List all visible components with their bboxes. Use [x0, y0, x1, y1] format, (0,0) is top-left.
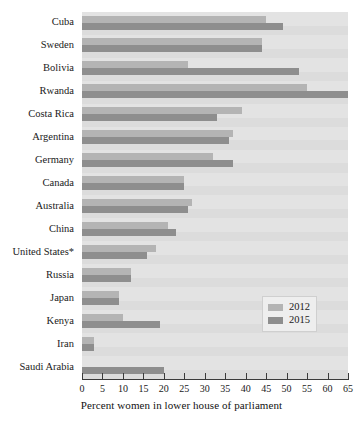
bar-2012-cuba: [82, 16, 266, 23]
bar-2012-kenya: [82, 314, 123, 321]
bar-2015-cuba: [82, 23, 283, 30]
bar-2015-bolivia: [82, 68, 299, 75]
bar-2015-united-states: [82, 252, 147, 259]
bar-2012-bolivia: [82, 61, 188, 68]
category-label-japan: Japan: [0, 293, 74, 304]
category-label-bolivia: Bolivia: [0, 63, 74, 74]
bar-2015-iran: [82, 344, 94, 351]
x-tick-25: [184, 373, 185, 380]
bar-2012-canada: [82, 176, 184, 183]
x-tick-55: [307, 373, 308, 380]
category-axis-labels: CubaSwedenBoliviaRwandaCosta RicaArgenti…: [0, 12, 78, 379]
legend-item-2015: 2015: [268, 314, 310, 327]
bar-2015-australia: [82, 206, 188, 213]
category-label-cuba: Cuba: [0, 17, 74, 28]
category-label-saudi-arabia: Saudi Arabia: [0, 362, 74, 373]
category-label-united-states: United States*: [0, 247, 74, 258]
x-tick-20: [164, 373, 165, 380]
x-tick-10: [123, 373, 124, 380]
bar-2015-sweden: [82, 45, 262, 52]
bar-2015-rwanda: [82, 91, 348, 98]
bar-2012-sweden: [82, 38, 262, 45]
x-tick-45: [266, 373, 267, 380]
bar-2015-china: [82, 229, 176, 236]
x-tick-50: [287, 373, 288, 380]
bar-2015-russia: [82, 275, 131, 282]
bar-2012-australia: [82, 199, 192, 206]
category-label-kenya: Kenya: [0, 316, 74, 327]
legend-swatch-2015: [268, 317, 283, 324]
x-axis-title: Percent women in lower house of parliame…: [0, 399, 363, 411]
bar-2012-japan: [82, 291, 119, 298]
category-label-argentina: Argentina: [0, 132, 74, 143]
x-tick-5: [102, 373, 103, 380]
category-label-sweden: Sweden: [0, 40, 74, 51]
category-label-canada: Canada: [0, 178, 74, 189]
x-tick-35: [225, 373, 226, 380]
bar-2015-canada: [82, 183, 184, 190]
bar-2015-costa-rica: [82, 114, 217, 121]
bar-2012-united-states: [82, 245, 156, 252]
x-tick-15: [143, 373, 144, 380]
bar-2012-costa-rica: [82, 107, 242, 114]
legend-swatch-2012: [268, 304, 283, 311]
category-label-australia: Australia: [0, 201, 74, 212]
category-label-costa-rica: Costa Rica: [0, 109, 74, 120]
x-tick-60: [328, 373, 329, 380]
category-label-russia: Russia: [0, 270, 74, 281]
x-axis-line: [82, 379, 348, 380]
row-band: [82, 347, 348, 356]
x-tick-30: [205, 373, 206, 380]
chart-container: CubaSwedenBoliviaRwandaCosta RicaArgenti…: [0, 0, 363, 425]
bar-2012-rwanda: [82, 84, 307, 91]
bar-2015-kenya: [82, 321, 160, 328]
bar-2015-argentina: [82, 137, 229, 144]
category-label-rwanda: Rwanda: [0, 86, 74, 97]
x-tick-label-65: 65: [336, 383, 360, 395]
bar-2012-russia: [82, 268, 131, 275]
legend-label-2015: 2015: [289, 315, 310, 326]
bar-2015-germany: [82, 160, 233, 167]
legend-label-2012: 2012: [289, 302, 310, 313]
category-label-iran: Iran: [0, 339, 74, 350]
x-tick-40: [246, 373, 247, 380]
x-tick-0: [82, 373, 83, 380]
bar-2012-iran: [82, 337, 94, 344]
bar-2012-argentina: [82, 130, 233, 137]
bar-2012-china: [82, 222, 168, 229]
legend-item-2012: 2012: [268, 301, 310, 314]
x-tick-65: [348, 373, 349, 380]
bar-2012-germany: [82, 153, 213, 160]
category-label-china: China: [0, 224, 74, 235]
bar-2015-japan: [82, 298, 119, 305]
chart-legend: 20122015: [262, 296, 317, 332]
category-label-germany: Germany: [0, 155, 74, 166]
